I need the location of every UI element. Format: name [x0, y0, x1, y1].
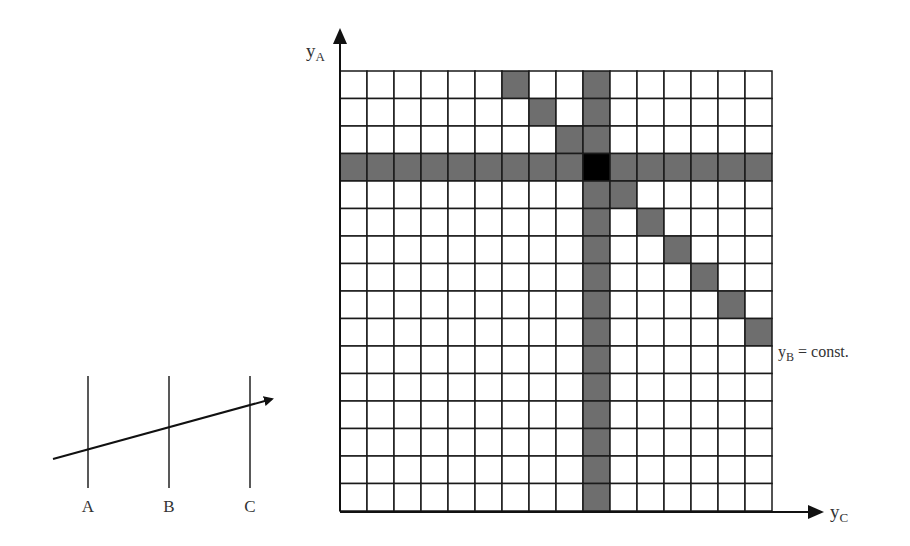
grid-cell [718, 319, 745, 347]
grid-cell [475, 264, 502, 292]
grid-cell [421, 346, 448, 374]
grid-cell [394, 71, 421, 99]
grid-cell [448, 346, 475, 374]
grid-cell [529, 319, 556, 347]
grid-cell [340, 209, 367, 237]
grid-cell-shaded [475, 154, 502, 182]
grid-cell [367, 401, 394, 429]
grid-cell [367, 484, 394, 512]
grid-cell [421, 319, 448, 347]
particle-track-arrow-icon [53, 399, 272, 459]
grid-cell [340, 264, 367, 292]
grid-cell [367, 264, 394, 292]
grid-cell [367, 291, 394, 319]
grid-cell-shaded [583, 429, 610, 457]
grid-cell [610, 291, 637, 319]
grid-cell [691, 429, 718, 457]
grid-cell [502, 209, 529, 237]
grid-cell [718, 374, 745, 402]
grid-cell [745, 264, 772, 292]
grid-cell-shaded [583, 484, 610, 512]
grid-cell [448, 429, 475, 457]
grid-cell [718, 181, 745, 209]
grid-cell [502, 429, 529, 457]
grid-cell-shaded [691, 154, 718, 182]
grid-cell [637, 374, 664, 402]
grid-cell [718, 99, 745, 127]
grid-cell [664, 429, 691, 457]
grid-cell [718, 71, 745, 99]
grid-cell [475, 99, 502, 127]
grid-cell-shaded [556, 154, 583, 182]
grid-cell [502, 484, 529, 512]
grid-cell [340, 456, 367, 484]
grid-cell [340, 346, 367, 374]
grid-cell-shaded [502, 71, 529, 99]
grid-cell [421, 484, 448, 512]
grid-cell [340, 429, 367, 457]
grid-cell-shaded [664, 236, 691, 264]
grid-cell [502, 126, 529, 154]
grid-cell [610, 429, 637, 457]
grid-cell [718, 401, 745, 429]
grid-cell [556, 71, 583, 99]
grid-cell [475, 319, 502, 347]
grid-cell [475, 209, 502, 237]
grid-cell [394, 264, 421, 292]
grid-cell [448, 319, 475, 347]
grid-cell [637, 181, 664, 209]
grid-cell [340, 401, 367, 429]
grid-cell [502, 236, 529, 264]
grid-cell [340, 126, 367, 154]
grid-cell [745, 429, 772, 457]
grid-cell [610, 126, 637, 154]
grid-cell [556, 291, 583, 319]
grid-cell [745, 484, 772, 512]
grid-cell [394, 484, 421, 512]
grid-cell [340, 484, 367, 512]
grid-cell [502, 264, 529, 292]
grid-cell-shaded [718, 154, 745, 182]
grid-cell-shaded [448, 154, 475, 182]
grid-cell [637, 291, 664, 319]
grid-cell [529, 126, 556, 154]
grid-cell [475, 374, 502, 402]
grid-cell [421, 264, 448, 292]
grid-cell [745, 374, 772, 402]
grid-cell [394, 126, 421, 154]
grid-cell [691, 236, 718, 264]
grid-cell [691, 401, 718, 429]
grid-cell [475, 456, 502, 484]
grid-cell [610, 319, 637, 347]
grid-cell [394, 99, 421, 127]
grid-cell [448, 99, 475, 127]
figure: yA yC yB = const. ABC [0, 0, 910, 546]
grid-cell-shaded [637, 209, 664, 237]
grid-cell [556, 319, 583, 347]
grid-cell [448, 126, 475, 154]
grid-cell [664, 126, 691, 154]
grid-cell [556, 264, 583, 292]
grid-cell [340, 71, 367, 99]
grid-cell [691, 319, 718, 347]
grid-cell [610, 71, 637, 99]
grid-cell [394, 401, 421, 429]
grid-cell-shaded [664, 154, 691, 182]
grid-cell-shaded [421, 154, 448, 182]
grid-cell [637, 484, 664, 512]
grid-cell-shaded [583, 291, 610, 319]
grid-cell [394, 456, 421, 484]
grid-cell [610, 346, 637, 374]
y-axis-label: yA [306, 40, 326, 64]
grid-cell-shaded [367, 154, 394, 182]
grid-cell [718, 484, 745, 512]
detector-label-a: A [82, 497, 95, 516]
grid-cell [718, 209, 745, 237]
grid-cell-shaded [583, 236, 610, 264]
grid-cell-shaded [583, 374, 610, 402]
grid-cell [664, 181, 691, 209]
grid-cell [502, 401, 529, 429]
grid-cell-shaded [529, 99, 556, 127]
grid-cell [664, 264, 691, 292]
grid-cell [637, 126, 664, 154]
